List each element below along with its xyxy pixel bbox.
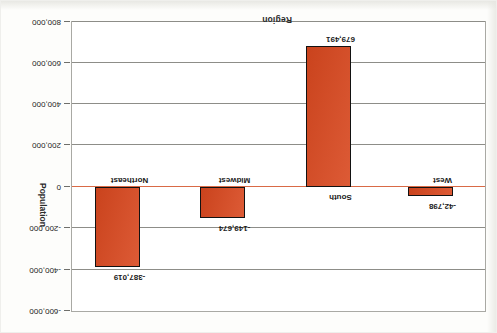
bar-sheen [409,188,452,195]
plot-area [71,21,486,312]
ticklabel-200000: 200,000 [32,141,61,150]
tick-zero [64,186,70,187]
gridline-200000 [72,144,485,145]
tick-neg600000 [64,310,70,311]
data-label-northeast: -387,019 [83,273,176,282]
bar-south[interactable] [306,46,351,187]
bar-west[interactable] [408,187,453,196]
scan-shadow-bottom [0,0,497,10]
category-label-south: South [295,193,386,202]
tick-neg200000 [64,227,70,228]
bar-northeast[interactable] [95,187,140,267]
ticklabel-neg600000: -600,000 [29,307,61,316]
tick-200000 [64,144,70,145]
gridline-400000 [72,103,485,104]
y-axis-title: Population [38,183,48,227]
scan-shadow-left [487,0,497,333]
ticklabel-neg400000: -400,000 [29,266,61,275]
data-label-south: 679,491 [295,35,386,44]
ticklabel-400000: 400,000 [32,100,61,109]
gridline-neg400000 [72,269,485,270]
bar-sheen [307,47,350,186]
category-label-west: West [408,176,477,185]
x-axis-title: Region [57,15,497,25]
bar-sheen [201,188,244,217]
ticklabel-600000: 600,000 [32,59,61,68]
chart-figure: -42,798 679,491 -149,674 -387,019 West S… [0,0,497,333]
data-label-midwest: -149,674 [188,224,281,233]
gridline-600000 [72,62,485,63]
bar-midwest[interactable] [200,187,245,218]
bar-sheen [96,188,139,266]
data-label-west: -42,798 [408,202,477,211]
category-label-midwest: Midwest [188,176,281,185]
ticklabel-zero: 0 [57,183,61,192]
tick-600000 [64,62,70,63]
tick-400000 [64,103,70,104]
tick-neg400000 [64,269,70,270]
category-label-northeast: Northeast [83,176,176,185]
